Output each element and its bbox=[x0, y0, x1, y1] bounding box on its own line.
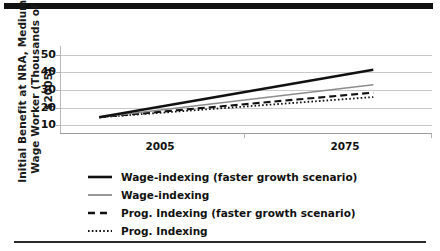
plot-area bbox=[60, 46, 432, 134]
series-line-wage-indexing-faster-growth bbox=[99, 70, 373, 118]
legend-item-wage-indexing: Wage-indexing bbox=[88, 186, 418, 204]
legend-swatch-dotted-icon bbox=[88, 225, 112, 237]
x-tick-label-2075: 2075 bbox=[315, 140, 375, 152]
legend-item-wage-indexing-faster-growth: Wage-indexing (faster growth scenario) bbox=[88, 168, 418, 186]
series-line-prog-indexing bbox=[99, 97, 373, 117]
bottom-rule bbox=[14, 241, 426, 243]
y-tick-label-40: 40 bbox=[22, 65, 56, 78]
legend-label-prog-indexing-faster-growth: Prog. Indexing (faster growth scenario) bbox=[121, 207, 356, 219]
y-tick-label-20: 20 bbox=[22, 101, 56, 114]
legend-swatch-dashed-icon bbox=[88, 207, 112, 219]
y-tick-label-10: 10 bbox=[22, 118, 56, 131]
legend-item-prog-indexing-faster-growth: Prog. Indexing (faster growth scenario) bbox=[88, 204, 418, 222]
x-tick-label-2005: 2005 bbox=[130, 140, 190, 152]
legend-item-prog-indexing: Prog. Indexing bbox=[88, 222, 418, 240]
top-rule bbox=[4, 3, 433, 9]
legend-swatch-solid-thick-icon bbox=[88, 171, 112, 183]
y-tick-label-50: 50 bbox=[22, 48, 56, 61]
y-tick-label-30: 30 bbox=[22, 83, 56, 96]
series-line-prog-indexing-faster-growth bbox=[99, 93, 373, 118]
chart-figure: Initial Benefit at NRA, Medium-Wage Work… bbox=[0, 0, 440, 251]
y-axis-tick-labels: 50 40 30 20 10 bbox=[18, 46, 56, 134]
series-lines bbox=[60, 46, 432, 134]
legend-label-wage-indexing: Wage-indexing bbox=[121, 189, 209, 201]
legend-label-wage-indexing-faster-growth: Wage-indexing (faster growth scenario) bbox=[121, 171, 357, 183]
legend-swatch-solid-gray-icon bbox=[88, 189, 112, 201]
legend-label-prog-indexing: Prog. Indexing bbox=[121, 225, 208, 237]
chart-legend: Wage-indexing (faster growth scenario) W… bbox=[88, 168, 418, 240]
series-line-wage-indexing bbox=[99, 85, 373, 118]
